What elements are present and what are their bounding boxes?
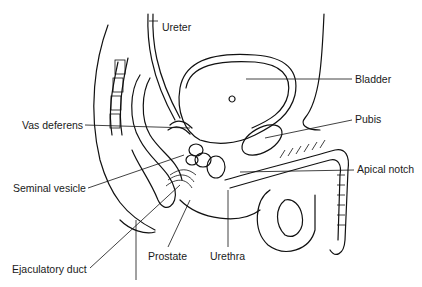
- label-prostate: Prostate: [148, 250, 187, 262]
- body-outline-back: [94, 25, 155, 230]
- sacrum: [110, 58, 128, 135]
- penis-shaft: [225, 150, 348, 255]
- testis: [278, 200, 303, 237]
- label-bladder: Bladder: [355, 73, 391, 85]
- label-pubis: Pubis: [355, 113, 381, 125]
- label-apical-notch: Apical notch: [357, 163, 414, 175]
- anatomy-diagram: Ureter Bladder Vas deferens Pubis Semina…: [0, 0, 422, 287]
- label-ejaculatory-duct: Ejaculatory duct: [12, 263, 87, 275]
- body-outline-front: [303, 14, 324, 130]
- bladder-shape: [179, 54, 296, 143]
- prostate-shape: [207, 156, 225, 178]
- label-ureter: Ureter: [162, 21, 191, 33]
- label-urethra: Urethra: [210, 250, 245, 262]
- label-seminal-vesicle: Seminal vesicle: [13, 182, 86, 194]
- pubis-shape: [237, 119, 287, 162]
- diagram-artwork: [0, 0, 422, 287]
- label-vas-deferens: Vas deferens: [22, 119, 83, 131]
